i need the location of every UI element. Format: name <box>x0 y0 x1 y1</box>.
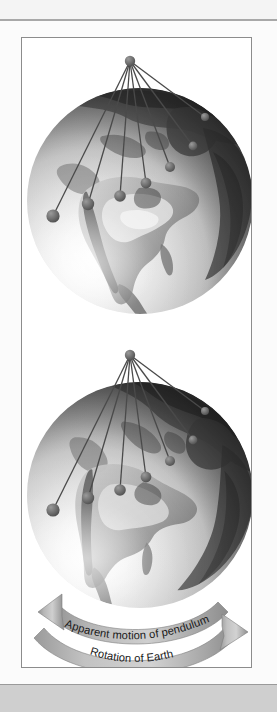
earth-globe-bottom <box>27 382 252 608</box>
scan-page-background: Apparent motion of pendulum Rotation of … <box>0 0 277 712</box>
earth-globe-top <box>27 88 252 314</box>
globe-stage-top <box>22 46 252 336</box>
scan-bottom-band <box>0 685 277 712</box>
motion-arrows-group: Apparent motion of pendulum Rotation of … <box>22 586 252 668</box>
continents-bottom <box>27 382 252 608</box>
continents-top <box>27 88 252 314</box>
figure-frame: Apparent motion of pendulum Rotation of … <box>21 37 252 668</box>
